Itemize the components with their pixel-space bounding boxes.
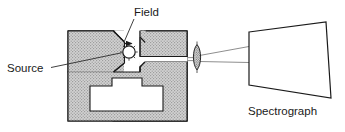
ray-lower-out [200, 62, 250, 63]
exit-slit [140, 57, 188, 62]
spectrograph-body [249, 22, 331, 98]
spectrograph-label: Spectrograph [248, 105, 317, 117]
left-pole-piece [68, 31, 125, 72]
ray-upper-out [200, 47, 250, 56]
light-source [120, 43, 137, 60]
condensing-lens [193, 42, 200, 74]
source-label: Source [7, 62, 43, 74]
schematic-svg: Field Source Spectrograph [0, 0, 345, 132]
source-circle [123, 46, 135, 58]
figure-canvas: Field Source Spectrograph [0, 0, 345, 132]
spectrograph-outline [249, 22, 331, 98]
upper-right-pole-piece [140, 31, 187, 57]
lens-body [193, 45, 200, 71]
field-label: Field [134, 6, 159, 18]
